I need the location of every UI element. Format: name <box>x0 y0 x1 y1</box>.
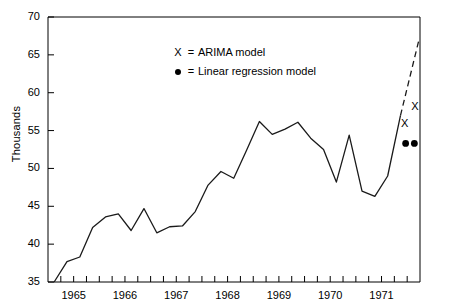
y-tick-label: 60 <box>12 86 40 98</box>
legend-label-linear-regression: Linear regression model <box>198 62 316 81</box>
y-axis-ticks <box>48 17 54 282</box>
y-tick-label: 65 <box>12 48 40 60</box>
y-tick-label: 55 <box>12 124 40 136</box>
legend-equals: = <box>184 43 198 62</box>
x-tick-label: 1967 <box>156 289 196 301</box>
y-tick-label: 70 <box>12 10 40 22</box>
x-tick-label: 1966 <box>105 289 145 301</box>
legend-label-arima: ARIMA model <box>198 43 265 62</box>
chart-container: Thousands XX 3540455055606570 1965196619… <box>0 0 452 307</box>
x-tick-label: 1968 <box>208 289 248 301</box>
x-tick-label: 1970 <box>310 289 350 301</box>
x-tick-label: 1971 <box>362 289 402 301</box>
x-marker-icon: X <box>172 43 184 62</box>
legend-item-arima: X = ARIMA model <box>172 43 316 62</box>
y-tick-label: 35 <box>12 275 40 287</box>
svg-text:X: X <box>401 117 409 129</box>
y-tick-label: 40 <box>12 237 40 249</box>
x-tick-label: 1965 <box>54 289 94 301</box>
dot-marker-icon <box>172 62 184 81</box>
x-tick-label: 1969 <box>259 289 299 301</box>
y-tick-label: 50 <box>12 161 40 173</box>
svg-text:X: X <box>411 100 419 112</box>
legend-item-linear-regression: = Linear regression model <box>172 62 316 81</box>
x-axis-ticks <box>61 276 407 282</box>
chart-legend: X = ARIMA model = Linear regression mode… <box>172 43 316 81</box>
forecast-point-markers: XX <box>401 100 419 147</box>
y-tick-label: 45 <box>12 199 40 211</box>
legend-equals: = <box>184 62 198 81</box>
